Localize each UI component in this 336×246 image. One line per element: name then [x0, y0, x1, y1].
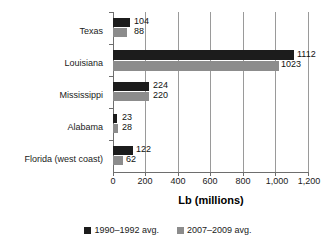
value-axis-tick-labels: 0 200 400 600 800 1,000 1,200 [113, 176, 313, 188]
category-label-mississippi: Mississippi [0, 90, 103, 100]
bar-label-louisiana-2007: 1023 [281, 59, 301, 69]
bar-label-alabama-1990: 23 [122, 112, 132, 122]
xtick-label-200: 200 [137, 176, 152, 186]
chart-legend: 1990–1992 avg. 2007–2009 avg. [0, 225, 336, 235]
xtick-label-0: 0 [110, 176, 115, 186]
category-axis-labels: Texas Louisiana Mississippi Alabama Flor… [0, 12, 108, 172]
bar-label-alabama-2007: 28 [122, 122, 132, 132]
gridline-400 [178, 12, 179, 172]
bar-label-texas-2007: 88 [134, 26, 144, 36]
plot-area: 104 88 1112 1023 224 220 23 28 1 [113, 12, 308, 172]
value-axis-title: Lb (millions) [113, 194, 309, 206]
bar-mississippi-1990 [113, 82, 149, 91]
ytick-top [109, 12, 113, 13]
bar-texas-2007 [113, 28, 127, 37]
ytick-1 [109, 44, 113, 45]
category-label-louisiana: Louisiana [0, 58, 103, 68]
ytick-4 [109, 140, 113, 141]
ytick-3 [109, 108, 113, 109]
category-label-florida: Florida (west coast) [0, 154, 103, 164]
bar-florida-2007 [113, 156, 123, 165]
xtick-label-800: 800 [235, 176, 250, 186]
legend-item-1990-1992: 1990–1992 avg. [84, 225, 159, 235]
bar-label-florida-2007: 62 [126, 154, 136, 164]
bar-label-florida-1990: 122 [136, 144, 151, 154]
xtick-label-600: 600 [202, 176, 217, 186]
legend-item-2007-2009: 2007–2009 avg. [177, 225, 252, 235]
bar-alabama-2007 [113, 124, 118, 133]
bar-louisiana-2007 [113, 61, 279, 71]
category-label-texas: Texas [0, 26, 103, 36]
bar-chart: Texas Louisiana Mississippi Alabama Flor… [0, 0, 336, 246]
bar-texas-1990 [113, 18, 130, 27]
bar-alabama-1990 [113, 114, 117, 123]
gridline-600 [210, 12, 211, 172]
legend-swatch-icon-1990 [84, 227, 91, 234]
gridline-1000 [275, 12, 276, 172]
xtick-label-1000: 1,000 [266, 176, 289, 186]
gridline-800 [243, 12, 244, 172]
gridline-1200 [308, 12, 309, 172]
category-axis-line [113, 172, 309, 173]
category-label-alabama: Alabama [0, 122, 103, 132]
xtick-label-1200: 1,200 [298, 176, 321, 186]
xtick-label-400: 400 [170, 176, 185, 186]
bar-label-mississippi-1990: 224 [153, 80, 168, 90]
ytick-2 [109, 76, 113, 77]
bar-label-louisiana-1990: 1112 [297, 49, 316, 59]
bar-mississippi-2007 [113, 92, 149, 101]
bar-louisiana-1990 [113, 50, 294, 60]
legend-swatch-icon-2007 [177, 227, 184, 234]
legend-label-1990: 1990–1992 avg. [94, 225, 159, 235]
bar-label-mississippi-2007: 220 [153, 90, 168, 100]
bar-label-texas-1990: 104 [134, 16, 149, 26]
legend-label-2007: 2007–2009 avg. [187, 225, 252, 235]
